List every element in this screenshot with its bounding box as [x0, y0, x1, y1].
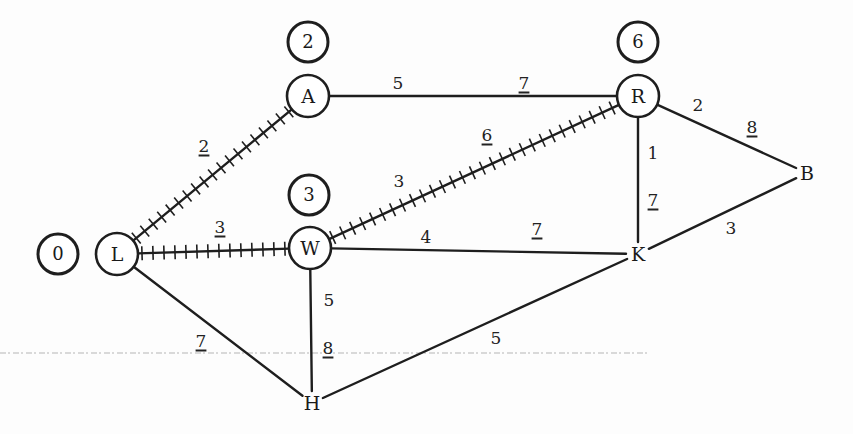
node-L: L: [111, 245, 124, 264]
edge-cumulative-label: 8: [323, 340, 334, 357]
edge-weight-label: 5: [491, 330, 502, 347]
edge-cumulative-label: 8: [747, 119, 758, 136]
edge-cumulative-label: 6: [482, 127, 493, 144]
edge-K-B: [649, 178, 796, 249]
edge-W-H: [310, 269, 312, 391]
edge-W-R: [329, 102, 619, 244]
node-A: A: [301, 87, 315, 106]
edge-cumulative-label: 7: [532, 221, 543, 238]
edge-W-K: [331, 248, 626, 253]
edge-L-A: [132, 106, 293, 243]
node-W: W: [300, 239, 320, 258]
edge-weight-label: 1: [648, 145, 659, 162]
node-H: H: [304, 394, 321, 413]
edge-cumulative-label: 7: [519, 75, 530, 92]
edge-cumulative-label: 2: [199, 138, 210, 155]
node-K: K: [631, 245, 645, 264]
graph-diagram: 23365747281735875LAWRBKH0236: [0, 0, 853, 434]
edge-L-H: [134, 267, 303, 396]
distance-label-L: 0: [52, 245, 63, 263]
node-B: B: [800, 164, 814, 183]
distance-label-W: 3: [303, 186, 314, 204]
edge-H-K: [323, 259, 627, 398]
edge-weight-label: 2: [693, 97, 704, 114]
edge-weight-label: 3: [394, 173, 405, 190]
node-R: R: [631, 87, 645, 106]
edge-L-W: [138, 242, 289, 260]
edge-weight-label: 4: [421, 229, 432, 246]
distance-label-A: 2: [302, 33, 313, 51]
edge-cumulative-label: 7: [196, 333, 207, 350]
distance-label-R: 6: [632, 33, 643, 51]
edge-weight-label: 5: [324, 292, 335, 309]
edge-weight-label: 5: [393, 75, 404, 92]
edge-cumulative-label: 7: [648, 192, 659, 209]
edge-cumulative-label: 3: [215, 219, 226, 236]
edge-R-B: [657, 105, 796, 168]
edge-weight-label: 3: [726, 220, 737, 237]
